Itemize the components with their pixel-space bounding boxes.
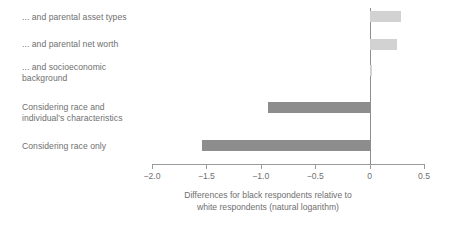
- x-tick-label-2: −1.0: [252, 171, 269, 181]
- category-labels: ... and parental asset types ... and par…: [0, 0, 148, 165]
- x-tick-4: [370, 164, 371, 169]
- x-tick-0: [152, 164, 153, 169]
- x-tick-label-4: 0: [367, 171, 372, 181]
- category-label-3: Considering race and individual's charac…: [22, 102, 150, 125]
- x-axis-caption: Differences for black respondents relati…: [118, 190, 418, 213]
- x-tick-label-5: 0.5: [418, 171, 430, 181]
- bar-3: [268, 102, 369, 113]
- bar-2: [370, 65, 372, 76]
- x-tick-2: [261, 164, 262, 169]
- category-label-1: ... and parental net worth: [22, 39, 150, 50]
- category-label-2: ... and socioeconomic background: [22, 62, 150, 85]
- x-tick-label-0: −2.0: [144, 171, 161, 181]
- category-label-0: ... and parental asset types: [22, 12, 150, 23]
- x-tick-1: [206, 164, 207, 169]
- horizontal-bar-chart: ... and parental asset types ... and par…: [0, 0, 451, 225]
- zero-reference-line: [370, 8, 371, 165]
- plot-area: [152, 0, 424, 165]
- bar-1: [370, 39, 397, 50]
- x-tick-label-3: −0.5: [307, 171, 324, 181]
- category-label-4: Considering race only: [22, 141, 150, 152]
- x-tick-5: [424, 164, 425, 169]
- bar-0: [370, 11, 402, 22]
- bar-4: [202, 140, 370, 151]
- x-tick-3: [315, 164, 316, 169]
- x-tick-label-1: −1.5: [198, 171, 215, 181]
- x-axis-line: [152, 164, 424, 165]
